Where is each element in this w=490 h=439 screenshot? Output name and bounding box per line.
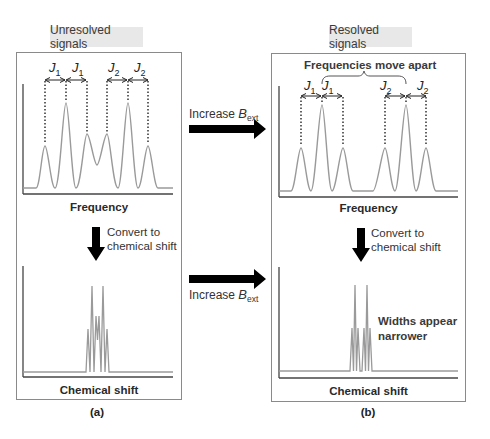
panel-b-chemical-shift-label: Chemical shift	[271, 385, 466, 397]
panel-a-dotted-guides	[45, 81, 148, 144]
panel-a-j-label-1: J1	[49, 60, 61, 78]
panel-a-j-label-4: J2	[134, 60, 146, 78]
increase-bext-label-top: Increase Bext	[189, 106, 258, 123]
caption-a: (a)	[82, 406, 112, 418]
panel-a-frequency-axes	[23, 84, 173, 194]
widths-narrower-note: Widths appear narrower	[378, 314, 457, 344]
panel-a-convert-arrow	[87, 227, 105, 261]
increase-bext-arrow-bottom	[189, 269, 266, 289]
panel-b-j-label-4: J2	[417, 78, 429, 96]
panel-a-chemical-shift-label: Chemical shift	[16, 384, 182, 396]
panel-a-j-label-2: J1	[72, 60, 84, 78]
panel-b-convert-arrow	[352, 228, 370, 262]
panel-b-j-label-2: J1	[322, 78, 334, 96]
caption-b: (b)	[353, 406, 383, 418]
panel-a-chemshift-axes	[23, 266, 173, 377]
panel-b-frequency-spectrum	[279, 105, 458, 191]
panel-a-chemshift-spectrum	[23, 286, 173, 372]
increase-bext-label-bottom: Increase Bext	[189, 287, 258, 304]
panel-a-convert-note: Convert to chemical shift	[107, 225, 177, 253]
frequencies-move-apart-label: Frequencies move apart	[304, 58, 436, 73]
panel-b-j-label-1: J1	[304, 78, 316, 96]
panel-b-frequency-axes	[279, 86, 458, 197]
panel-b-j-label-3: J2	[380, 78, 392, 96]
panel-a-j-label-3: J2	[108, 60, 120, 78]
panel-a-frequency-label: Frequency	[16, 201, 182, 213]
panel-b-convert-note: Convert to chemical shift	[371, 226, 441, 254]
panel-a-frequency-spectrum	[23, 103, 173, 188]
panel-b-frequency-label: Frequency	[271, 202, 466, 214]
